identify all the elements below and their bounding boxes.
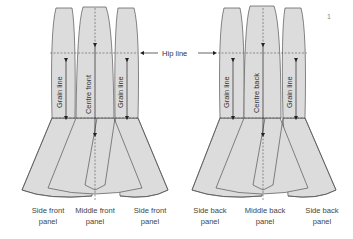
middle-back-top xyxy=(244,6,281,118)
grain-line-label: Grain line xyxy=(116,76,125,108)
caption-side-back-right: Side backpanel xyxy=(292,205,352,227)
caption-side-front-right: Side frontpanel xyxy=(120,205,180,227)
hip-line-label: Hip line xyxy=(162,49,187,58)
panel-diagram: Grain line Centre front Grain line Grain… xyxy=(0,0,353,239)
front-panel-group: Grain line Centre front Grain line xyxy=(22,7,168,200)
back-panel-group: Grain line Centre back Grain line xyxy=(192,6,336,200)
centre-back-label: Centre back xyxy=(252,73,261,113)
grain-line-label: Grain line xyxy=(285,76,294,108)
grain-line-label: Grain line xyxy=(55,76,64,108)
caption-side-back-left: Side backpanel xyxy=(180,205,240,227)
centre-front-label: Centre front xyxy=(84,75,93,114)
caption-middle-front: Middle frontpanel xyxy=(65,205,125,227)
figure-number: 1 xyxy=(327,13,331,20)
caption-middle-back: Middle backpanel xyxy=(235,205,295,227)
grain-line-label: Grain line xyxy=(222,76,231,108)
